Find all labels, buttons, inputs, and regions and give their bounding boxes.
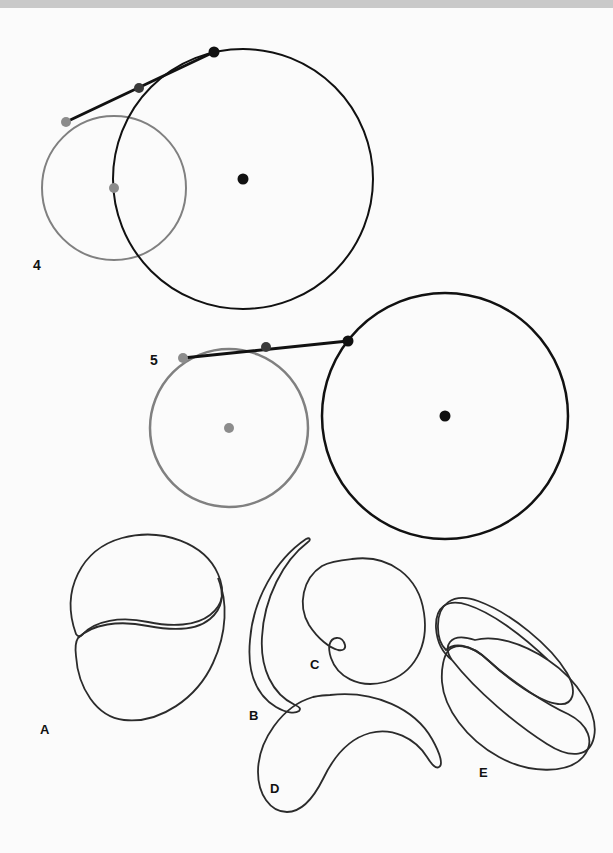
shape-c-outline	[303, 558, 425, 684]
figure-4-segment-end-dot	[209, 47, 220, 58]
figure-4-large-circle-center	[238, 174, 249, 185]
shape-d-label: D	[270, 781, 279, 796]
shape-b-label: B	[249, 708, 258, 723]
figure-4-group: 4	[33, 47, 373, 310]
shape-a-outline-lower	[76, 578, 225, 720]
shape-d-outline	[258, 694, 441, 812]
figure-page: 4 5 A B C	[0, 0, 613, 853]
figure-5-segment-end-dot	[343, 336, 354, 347]
figure-5-segment-start-dot	[178, 353, 188, 363]
figure-4-label: 4	[33, 257, 41, 273]
shape-e-outline	[436, 603, 595, 754]
shape-d-group: D	[258, 694, 441, 812]
shape-b-group: B	[249, 538, 310, 723]
shape-c-label: C	[310, 657, 320, 672]
figure-4-segment-start-dot	[61, 117, 71, 127]
shape-b-crescent	[249, 538, 309, 712]
figure-5-label: 5	[150, 352, 158, 368]
shape-c-group: C	[303, 558, 425, 684]
figure-canvas: 4 5 A B C	[0, 0, 613, 853]
shape-e-lobe-lower	[442, 646, 590, 770]
shape-e-group: E	[436, 598, 595, 780]
figure-5-segment-mid-dot	[261, 342, 271, 352]
figure-5-group: 5	[150, 293, 568, 539]
figure-5-large-circle-center	[440, 411, 451, 422]
figure-5-small-circle-center	[224, 423, 234, 433]
shape-a-outline-upper	[71, 535, 222, 637]
figure-4-segment-mid-dot	[134, 83, 144, 93]
shape-e-label: E	[479, 765, 488, 780]
shape-a-group: A	[40, 535, 225, 737]
shape-a-label: A	[40, 722, 50, 737]
shape-e-lobe-upper	[438, 598, 573, 704]
figure-4-small-circle-center	[109, 183, 119, 193]
